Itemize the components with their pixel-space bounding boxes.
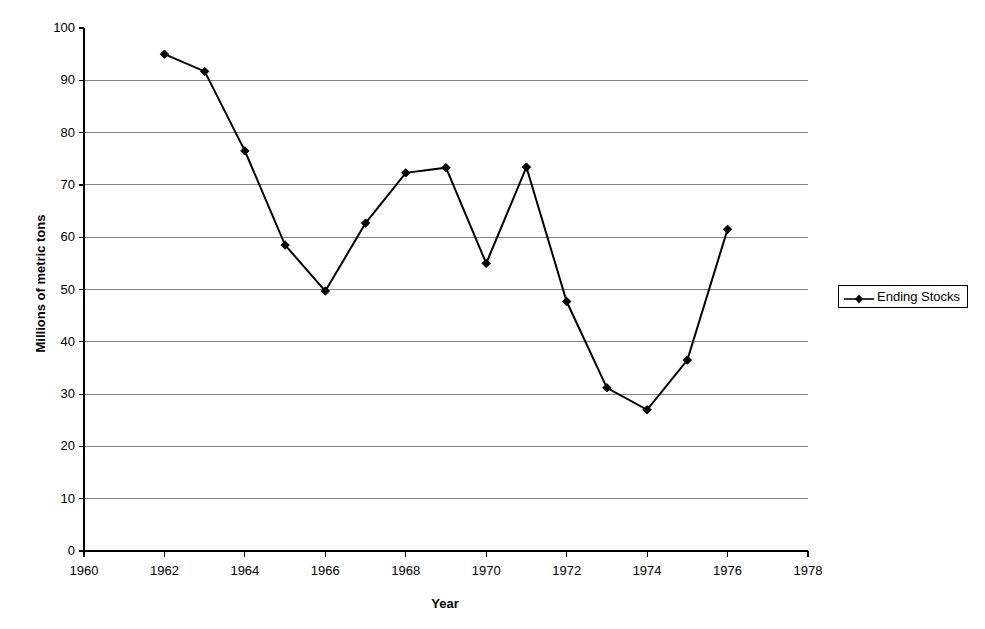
y-axis-tick-label: 20	[27, 439, 75, 452]
data-point-marker[interactable]	[603, 384, 611, 392]
y-axis-tick-label: 90	[27, 73, 75, 86]
x-axis-tick-label: 1964	[215, 564, 275, 577]
data-point-marker[interactable]	[200, 67, 208, 75]
x-axis-tick-label: 1978	[778, 564, 838, 577]
y-axis-tick-label: 10	[27, 492, 75, 505]
y-axis-tick-label: 80	[27, 126, 75, 139]
chart-plot-area	[0, 0, 985, 629]
y-axis-tick-label: 0	[27, 544, 75, 557]
chart-legend[interactable]: Ending Stocks	[838, 285, 968, 308]
data-point-marker[interactable]	[442, 163, 450, 171]
data-series-line	[164, 54, 727, 410]
x-axis-tick-label: 1962	[134, 564, 194, 577]
x-axis-tick-label: 1968	[376, 564, 436, 577]
x-axis-tick-label: 1966	[295, 564, 355, 577]
x-axis-tick-label: 1972	[537, 564, 597, 577]
data-point-marker[interactable]	[723, 225, 731, 233]
data-point-marker[interactable]	[482, 259, 490, 267]
x-axis-tick-label: 1976	[698, 564, 758, 577]
x-axis-tick-label: 1974	[617, 564, 677, 577]
y-axis-tick-label: 100	[27, 21, 75, 34]
x-axis-tick-label: 1960	[54, 564, 114, 577]
y-axis-title: Millions of metric tons	[33, 184, 48, 384]
diamond-marker-icon	[844, 291, 874, 303]
x-axis-tick-label: 1970	[456, 564, 516, 577]
data-point-marker[interactable]	[562, 297, 570, 305]
data-point-marker[interactable]	[522, 163, 530, 171]
x-axis-title: Year	[0, 596, 890, 611]
data-point-marker[interactable]	[241, 147, 249, 155]
chart-container: 1009080706050403020100 19601962196419661…	[0, 0, 985, 629]
y-axis-tick-label: 30	[27, 387, 75, 400]
data-point-marker[interactable]	[160, 50, 168, 58]
legend-entry-label: Ending Stocks	[877, 289, 960, 304]
